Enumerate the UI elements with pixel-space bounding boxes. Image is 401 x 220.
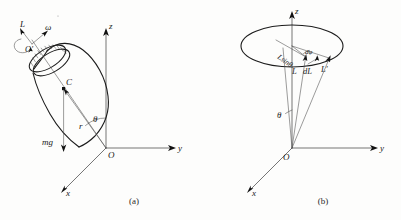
angular-momentum-arrow-a [20, 28, 32, 44]
caption-panel-a: (a) [129, 196, 139, 206]
label-radius-a: r [79, 121, 83, 131]
label-dphi-b: dφ [305, 48, 313, 56]
label-origin-a: O [108, 150, 115, 160]
label-angular-momentum-a: L [19, 19, 25, 29]
label-center-of-mass-a: C [66, 77, 73, 87]
label-weight-a: mg [42, 137, 53, 147]
label-axis-y-a: y [177, 143, 182, 153]
label-origin-b: O [283, 152, 290, 162]
physics-figure-canvas: L ω O′ C r mg θ z y x O (a) [0, 0, 401, 220]
panel-b-y-axis [292, 145, 378, 151]
caption-panel-b: (b) [318, 196, 329, 206]
weight-vector-arrow [61, 90, 66, 152]
figure-page: L ω O′ C r mg θ z y x O (a) [0, 0, 401, 220]
label-angular-momentum-prime-b: L′ [320, 64, 328, 74]
label-pivot-point-a: O′ [25, 44, 33, 54]
spin-axis-line [32, 40, 106, 148]
label-angular-momentum-b: L [291, 66, 297, 76]
label-delta-angular-momentum-b: dL [303, 66, 312, 76]
label-axis-x-b: x [251, 188, 256, 198]
label-axis-z-b: z [294, 6, 299, 16]
panel-b-group: Lsinθ L dL L′ dφ θ z y x O (b) [241, 6, 384, 206]
panel-a-x-axis [61, 148, 106, 193]
label-axis-z-a: z [108, 21, 113, 31]
panel-a-y-axis [106, 145, 176, 151]
center-of-mass-marker [62, 87, 65, 90]
label-axis-y-b: y [379, 143, 384, 153]
spinning-top-body [33, 43, 108, 147]
label-theta-a: θ [93, 114, 98, 124]
angular-velocity-arrow-a [32, 31, 48, 45]
delta-angular-momentum-vector [308, 55, 319, 64]
label-theta-b: θ [277, 110, 282, 120]
label-angular-velocity-a: ω [45, 22, 51, 32]
scan-speck [57, 15, 58, 16]
label-axis-x-a: x [65, 188, 70, 198]
panel-a-z-axis [103, 28, 109, 148]
panel-a-group: L ω O′ C r mg θ z y x O (a) [14, 15, 182, 206]
